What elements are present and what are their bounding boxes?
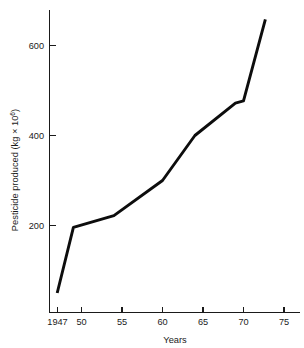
x-tick-label-1947: 1947 <box>47 317 67 327</box>
y-tick-label-200: 200 <box>29 221 44 231</box>
x-tick-label-1970: 70 <box>238 317 248 327</box>
y-axis-label-close: ) <box>10 109 20 112</box>
chart-background <box>0 0 304 348</box>
x-axis-label: Years <box>163 335 187 345</box>
x-tick-label-1955: 55 <box>117 317 127 327</box>
x-tick-label-1950: 50 <box>76 317 86 327</box>
y-tick-label-400: 400 <box>29 131 44 141</box>
x-tick-label-1975: 75 <box>279 317 289 327</box>
y-tick-label-600: 600 <box>29 41 44 51</box>
x-tick-label-1965: 65 <box>198 317 208 327</box>
svg-text:Pesticide produced (kg × 106): Pesticide produced (kg × 106) <box>9 109 20 231</box>
line-chart: 200 400 600 1947 50 55 60 65 70 75 Years <box>0 0 304 348</box>
y-axis-label: Pesticide produced (kg × 106) <box>9 109 20 231</box>
x-tick-label-1960: 60 <box>157 317 167 327</box>
y-axis-label-main: Pesticide produced (kg × 10 <box>10 116 20 232</box>
chart-figure: 200 400 600 1947 50 55 60 65 70 75 Years <box>0 0 304 348</box>
